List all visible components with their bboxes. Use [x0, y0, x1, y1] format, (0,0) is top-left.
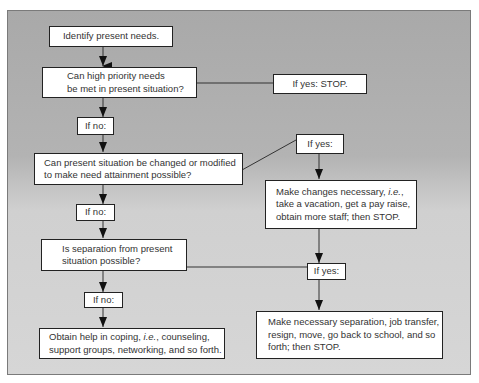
question-change-situation-text: Can present situation be changed or modi…	[44, 157, 236, 182]
if-yes-box-2: If yes:	[307, 263, 346, 280]
if-no-box-2: If no:	[76, 204, 115, 221]
question-separation-box: Is separation from present situation pos…	[41, 239, 187, 271]
make-changes-text: Make changes necessary, i.e., take a vac…	[276, 186, 410, 224]
if-no-box-3: If no:	[84, 292, 123, 308]
make-changes-ie: i.e.	[388, 186, 401, 197]
if-no-box-1: If no:	[77, 117, 114, 135]
question-separation-text: Is separation from present situation pos…	[62, 243, 172, 268]
identify-needs-box: Identify present needs.	[49, 26, 173, 47]
if-yes-text-2: If yes:	[314, 265, 339, 278]
if-yes-text-1: If yes:	[307, 138, 332, 151]
if-yes-stop-text: If yes: STOP.	[292, 78, 347, 91]
question-change-situation-box: Can present situation be changed or modi…	[34, 153, 243, 185]
obtain-help-box: Obtain help in coping, i.e., counseling,…	[39, 328, 225, 359]
if-yes-stop-box: If yes: STOP.	[273, 74, 367, 94]
make-separation-box: Make necessary separation, job transfer,…	[256, 311, 443, 359]
if-no-text-3: If no:	[93, 294, 114, 307]
make-separation-text: Make necessary separation, job transfer,…	[268, 316, 439, 354]
question-priority-needs-text: Can high priority needs be met in presen…	[67, 70, 184, 95]
obtain-help-text-pre: Obtain help in coping,	[49, 331, 144, 342]
make-changes-text-pre: Make changes necessary,	[276, 186, 388, 197]
obtain-help-ie: i.e.	[144, 331, 157, 342]
identify-needs-text: Identify present needs.	[63, 30, 159, 43]
if-no-text-2: If no:	[85, 206, 106, 219]
if-no-text-1: If no:	[85, 120, 106, 133]
if-yes-box-1: If yes:	[296, 134, 344, 154]
question-priority-needs-box: Can high priority needs be met in presen…	[42, 67, 197, 98]
make-changes-box: Make changes necessary, i.e., take a vac…	[265, 180, 417, 229]
obtain-help-text: Obtain help in coping, i.e., counseling,…	[49, 331, 222, 356]
